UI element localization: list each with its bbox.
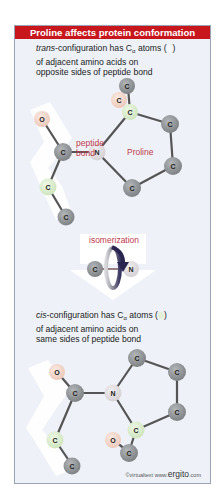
svg-text:C: C [174,369,179,376]
svg-text:N: N [128,266,133,273]
svg-text:C: C [63,214,68,221]
svg-text:O: O [110,437,116,444]
proline-label: Proline [127,147,154,157]
cis-bonds [55,358,177,465]
molecule-diagram: C C C C C C N O C C C peptide bond Proli… [0,0,222,496]
svg-text:C: C [174,409,179,416]
bond-label: bond [76,148,95,158]
svg-text:C: C [69,463,74,470]
isomerization-arrow: isomerization C N [70,234,156,300]
svg-text:N: N [110,390,115,397]
svg-text:N: N [94,149,99,156]
svg-text:C: C [92,266,97,273]
svg-text:C: C [45,184,50,191]
svg-text:C: C [60,149,65,156]
svg-text:C: C [72,390,77,397]
svg-text:C: C [134,355,139,362]
isomerization-label: isomerization [89,235,139,245]
svg-text:C: C [126,450,131,457]
peptide-label: peptide [76,138,104,148]
svg-text:C: C [167,121,172,128]
svg-text:C: C [124,83,129,90]
svg-text:O: O [39,116,45,123]
svg-text:C: C [52,437,57,444]
svg-text:C: C [133,427,138,434]
svg-text:C: C [127,109,132,116]
svg-text:C: C [170,163,175,170]
svg-text:C: C [116,97,121,104]
svg-text:O: O [54,369,60,376]
svg-text:C: C [129,185,134,192]
